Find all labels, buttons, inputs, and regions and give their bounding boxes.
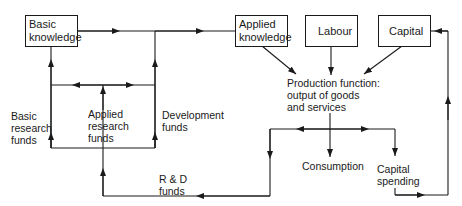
rd-funds-line2: funds [159,185,187,197]
development-funds-line1: Development [162,109,224,121]
capital-label: Capital [389,25,423,38]
basic-knowledge-node: Basic knowledge [25,15,78,47]
production-function-label: Production function: output of goods and… [287,77,380,113]
applied-knowledge-node: Applied knowledge [235,15,288,47]
production-function-line1: Production function: [287,77,380,89]
development-funds-label: Development funds [162,109,224,133]
capital-node: Capital [378,15,431,47]
capital-spending-line2: spending [377,175,420,187]
capital-spending-label: Capital spending [377,163,420,187]
rd-funds-line1: R & D [159,173,187,185]
applied-research-funds-line2: research [88,120,129,132]
basic-research-funds-line1: Basic [11,110,52,122]
capital-spending-line1: Capital [377,163,420,175]
basic-research-funds-label: Basic research funds [11,110,52,146]
basic-knowledge-line1: Basic [29,18,56,31]
labour-label: Labour [318,25,352,38]
basic-knowledge-line2: knowledge [29,31,82,44]
production-function-line2: output of goods [287,89,380,101]
production-function-line3: and services [287,101,380,113]
applied-knowledge-line2: knowledge [239,31,292,44]
labour-node: Labour [305,15,358,47]
basic-research-funds-line2: research [11,122,52,134]
basic-research-funds-line3: funds [11,134,52,146]
applied-research-funds-label: Applied research funds [88,108,129,144]
applied-research-funds-line3: funds [88,132,129,144]
applied-research-funds-line1: Applied [88,108,129,120]
development-funds-line2: funds [162,121,224,133]
rd-funds-label: R & D funds [159,173,187,197]
applied-knowledge-line1: Applied [239,18,276,31]
consumption-label: Consumption [302,160,364,172]
